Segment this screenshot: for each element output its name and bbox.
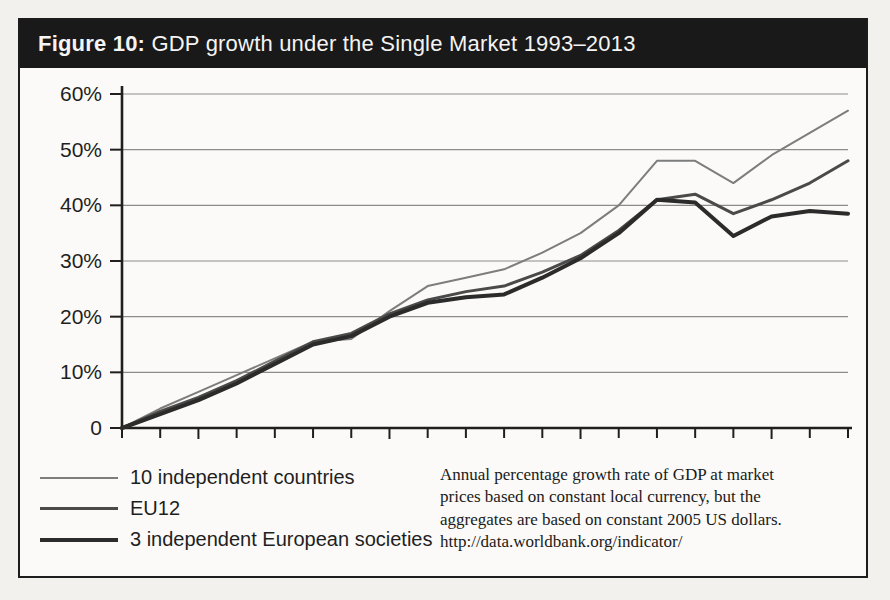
legend-item-label: EU12 [130, 497, 180, 520]
legend-item[interactable]: 10 independent countries [40, 462, 432, 493]
y-tick-label: 20% [60, 305, 102, 328]
source-note-line: aggregates are based on constant 2005 US… [440, 509, 852, 531]
y-tick-label: 40% [60, 193, 102, 216]
x-tick-label: 2005 [557, 443, 604, 448]
figure-page: Figure 10: GDP growth under the Single M… [0, 0, 890, 600]
figure-box: Figure 10: GDP growth under the Single M… [18, 18, 868, 578]
y-axis-ticks: 010%20%30%40%50%60% [60, 82, 123, 439]
x-tick-label: 1995 [175, 443, 222, 448]
y-tick-label: 30% [60, 249, 102, 272]
source-note-line: Annual percentage growth rate of GDP at … [440, 464, 852, 486]
legend-item-label: 3 independent European societies [130, 528, 432, 551]
line-chart-svg: 010%20%30%40%50%60% 1995200020052010 [20, 68, 866, 448]
legend-item[interactable]: EU12 [40, 493, 432, 524]
source-note-url[interactable]: http://data.worldbank.org/indicator/ [440, 531, 852, 553]
chart-legend: 10 independent countries EU12 3 independ… [40, 456, 432, 576]
chart-plot-area: 010%20%30%40%50%60% 1995200020052010 [20, 68, 866, 448]
legend-item[interactable]: 3 independent European societies [40, 524, 432, 555]
figure-number-label: Figure 10: [38, 31, 145, 56]
legend-line-swatch-icon [40, 538, 118, 542]
y-tick-label: 10% [60, 360, 102, 383]
figure-footer: 10 independent countries EU12 3 independ… [20, 452, 866, 576]
data-series-lines [122, 111, 848, 428]
y-tick-label: 0 [90, 416, 102, 439]
figure-title-band: Figure 10: GDP growth under the Single M… [20, 20, 866, 68]
x-axis-ticks: 1995200020052010 [122, 428, 848, 448]
legend-line-swatch-icon [40, 507, 118, 510]
source-note-line: prices based on constant local currency,… [440, 486, 852, 508]
series-line [122, 111, 848, 428]
x-tick-label: 2010 [748, 443, 795, 448]
x-tick-label: 2000 [366, 443, 413, 448]
series-line [122, 200, 848, 428]
figure-title-label: GDP growth under the Single Market 1993–… [145, 31, 635, 56]
legend-line-swatch-icon [40, 477, 118, 479]
legend-item-label: 10 independent countries [130, 466, 355, 489]
source-note: Annual percentage growth rate of GDP at … [432, 456, 852, 576]
y-tick-label: 50% [60, 138, 102, 161]
page-title: Figure 10: GDP growth under the Single M… [38, 31, 636, 57]
y-tick-label: 60% [60, 82, 102, 105]
